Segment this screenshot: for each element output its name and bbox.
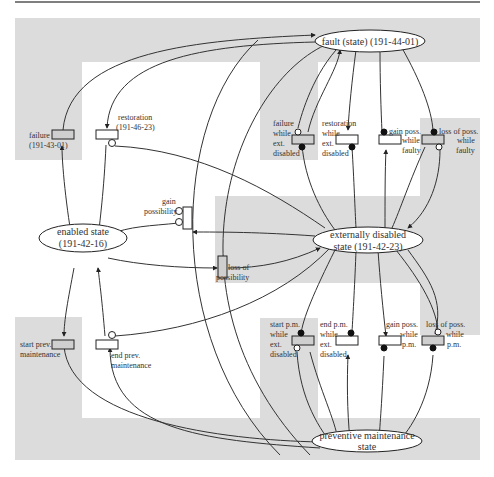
gain-label-1: gain [162,197,176,206]
start-pm-label-2: maintenance [20,350,61,359]
spe-label-4: disabled [270,350,297,359]
state-fault-label: fault (state) (191-44-01) [322,36,419,48]
lpp-label-2: while [446,330,464,339]
state-externally-disabled[interactable]: externally disabled state (191-42-23) [313,227,423,253]
gpf-label-2: while [402,136,420,145]
token-dot-icon [381,345,387,351]
loss-label-1: loss of [228,263,249,272]
end-pm-label-1: end prev. [111,351,140,360]
fwe-label-3: ext. [273,139,285,148]
state-preventive-maintenance[interactable]: preventive maintenance state [312,430,422,452]
loss-label-2: possibility [216,273,249,282]
start-pm-label-1: start prev. [20,340,51,349]
spe-label-3: ext. [270,340,282,349]
inhibitor-circle-icon [435,329,441,335]
epe-label-2: while [320,330,338,339]
transition-loss-poss-while-pm[interactable]: loss of poss. while p.m. [422,320,465,351]
transition-end-pm[interactable]: end prev. maintenance [96,332,152,371]
rwe-label-2: while [322,129,340,138]
rwe-label-3: ext. [322,139,334,148]
spe-label-1: start p.m. [270,320,300,329]
state-transition-diagram: fault (state) (191-44-01) enabled state … [0,0,494,477]
state-extdis-label-2: state (191-42-23) [333,241,402,253]
token-dot-icon [431,129,437,135]
spe-label-2: while [270,330,288,339]
inhibitor-circle-icon [109,332,116,339]
gpp-label-3: p.m. [402,340,416,349]
gain-label-2: possibility [144,207,177,216]
state-enabled-label-2: (191-42-16) [59,238,107,250]
state-extdis-label-1: externally disabled [330,229,406,240]
token-dot-icon [381,129,387,135]
token-dot-icon [349,144,355,150]
inhibitor-circle-icon [176,219,183,226]
state-enabled-label-1: enabled state [57,226,109,237]
gpf-label-3: faulty [402,146,421,155]
gpp-label-2: while [400,330,418,339]
lpf-label-2: while [457,136,475,145]
inhibitor-circle-icon [295,129,301,135]
lpf-label-3: faulty [456,146,475,155]
state-pm-label-2: state [358,441,377,452]
gpf-label-1: gain poss. [389,127,421,136]
state-pm-label-1: preventive maintenance [319,430,415,441]
failure-label-1: failure [29,131,50,140]
rwe-label-1: restoration [322,119,356,128]
state-fault[interactable]: fault (state) (191-44-01) [315,30,425,52]
restoration-label-1: restoration [118,113,152,122]
token-dot-icon [348,330,354,336]
extdis-region [215,196,480,335]
fwe-label-2: while [273,129,291,138]
fwe-label-4: disabled [273,149,300,158]
rwe-label-4: disabled [322,149,349,158]
gpp-label-1: gain poss. [386,320,418,329]
epe-label-1: end p.m. [320,320,348,329]
inhibitor-circle-icon [436,144,442,150]
lpp-label-1: loss of poss. [426,320,465,329]
fwe-label-1: failure [273,119,294,128]
restoration-label-2: (191-46-23) [116,123,155,132]
transition-gain-poss-while-faulty[interactable]: gain poss. while faulty [379,127,421,155]
end-pm-label-2: maintenance [111,361,152,370]
inhibitor-circle-icon [109,140,116,147]
epe-label-4: disabled [320,350,347,359]
token-dot-icon [298,330,304,336]
lpp-label-3: p.m. [447,340,461,349]
token-dot-icon [430,345,436,351]
failure-label-2: (191-43-01) [29,141,68,150]
transition-restoration[interactable]: restoration (191-46-23) [96,113,155,147]
state-enabled[interactable]: enabled state (191-42-16) [39,224,127,252]
token-dot-icon [299,144,305,150]
epe-label-3: ext. [320,340,332,349]
lpf-label-1: loss of poss. [439,127,478,136]
